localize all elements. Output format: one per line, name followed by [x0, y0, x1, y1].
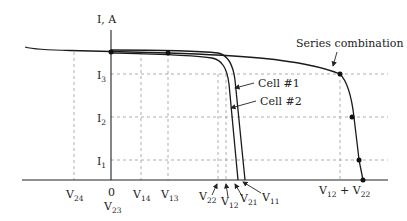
label-V12-plus-V22: V12 + V22	[318, 184, 370, 199]
iv-diagram: I, A I3 I2 I1 V24 0 V23 V14 V13 V22 V12 …	[0, 0, 407, 221]
label-I1: I1	[97, 155, 106, 170]
label-I3: I3	[97, 69, 106, 84]
label-zero: 0	[108, 186, 115, 199]
series-combination-curve	[25, 47, 363, 180]
y-axis-label: I, A	[97, 13, 117, 26]
label-V11: V11	[261, 191, 280, 206]
label-V12: V12	[220, 195, 239, 210]
label-V13: V13	[160, 188, 179, 203]
cell2-curve	[111, 53, 238, 180]
label-V24: V24	[65, 188, 84, 203]
label-cell1: Cell #1	[258, 77, 300, 90]
curves	[25, 47, 363, 180]
label-series-combination: Series combination	[296, 37, 404, 50]
guide-lines	[74, 52, 388, 180]
label-I2: I2	[97, 112, 106, 127]
label-cell2: Cell #2	[260, 95, 302, 108]
label-V23: V23	[103, 200, 122, 215]
label-V22: V22	[198, 190, 217, 205]
label-V21: V21	[239, 192, 258, 207]
label-V14: V14	[132, 188, 151, 203]
labels: I, A I3 I2 I1 V24 0 V23 V14 V13 V22 V12 …	[65, 13, 404, 215]
